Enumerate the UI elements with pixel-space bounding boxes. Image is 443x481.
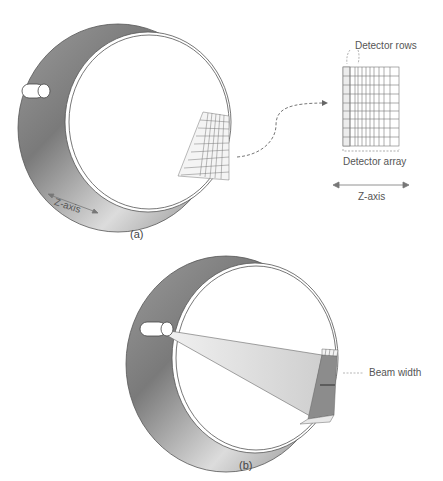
xray-tube-a [22,84,50,98]
caption-b: (b) [239,459,252,471]
beam-width-label: Beam width [369,367,421,378]
zoom-connector [237,103,326,157]
gantry-ring-b [126,256,364,472]
connector-arrowhead [322,100,328,106]
detector-array-inset [343,50,399,151]
z-axis-arrow-inset [333,182,409,188]
caption-a: (a) [130,228,143,240]
xray-tube-b [140,322,173,336]
z-axis-label-inset: Z-axis [358,191,385,202]
gantry-ring-a [18,24,231,232]
detector-array-label: Detector array [343,156,406,167]
detector-rows-label: Detector rows [355,40,417,51]
ct-detector-diagram [0,0,443,481]
